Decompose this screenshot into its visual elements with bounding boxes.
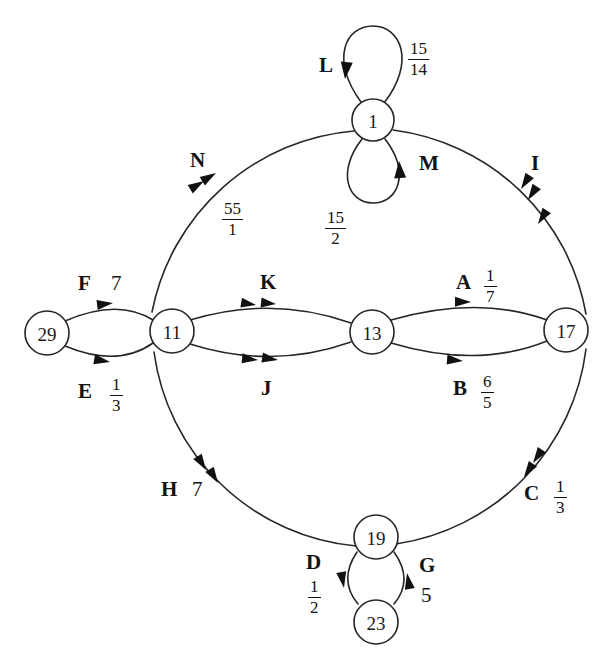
arrowhead-J-2 [261, 353, 278, 365]
edge-label-J: J [261, 378, 272, 399]
edge-path-K[interactable] [190, 308, 351, 323]
edge-path-G[interactable] [394, 552, 404, 604]
edge-label-H: H [161, 479, 177, 500]
edge-weight-N-numerator: 55 [222, 200, 243, 220]
edge-weight-B: 6 5 [481, 373, 494, 413]
edge-weight-N-denominator: 1 [222, 220, 243, 239]
edge-path-L[interactable] [344, 26, 402, 103]
edge-weight-B-numerator: 6 [481, 373, 494, 393]
edge-weight-A-denominator: 7 [484, 287, 497, 306]
edge-label-C: C [524, 483, 539, 504]
edge-path-M[interactable] [347, 139, 399, 203]
arrowhead-L-1 [339, 61, 353, 79]
edge-path-B[interactable] [391, 341, 547, 356]
left-lens-edges [65, 309, 153, 356]
node-13[interactable]: 13 [350, 310, 394, 354]
edge-label-N: N [190, 150, 205, 171]
edge-weight-C-denominator: 3 [554, 498, 567, 517]
node-23[interactable]: 23 [354, 600, 398, 644]
node-17-label: 17 [557, 321, 576, 342]
edge-weight-E: 1 3 [110, 376, 123, 416]
edge-weight-D: 1 2 [308, 578, 321, 618]
arrowhead-A-1 [455, 297, 471, 307]
edge-path-N[interactable] [152, 131, 354, 312]
edge-weight-C-numerator: 1 [554, 478, 567, 498]
edge-label-M: M [419, 153, 439, 174]
node-29-label: 29 [38, 324, 57, 345]
arrowhead-B-1 [447, 355, 464, 366]
edge-path-A[interactable] [391, 308, 547, 321]
node-23-label: 23 [367, 613, 386, 634]
edge-weight-G: 5 [421, 585, 432, 606]
edge-weight-B-denominator: 5 [481, 393, 494, 412]
arrowhead-C-2 [520, 461, 537, 480]
edge-weight-A: 1 7 [484, 267, 497, 307]
node-19-label: 19 [367, 528, 386, 549]
node-17[interactable]: 17 [544, 308, 588, 352]
node-11-label: 11 [163, 322, 181, 343]
edge-label-F: F [78, 273, 91, 294]
edge-label-K: K [260, 272, 276, 293]
bottom-lens-edges [348, 552, 404, 604]
edge-label-A: A [456, 272, 471, 293]
edge-weight-L: 15 14 [408, 40, 429, 80]
edge-weight-E-denominator: 3 [110, 396, 123, 415]
edge-path-H[interactable] [154, 352, 356, 546]
edge-weight-M-denominator: 2 [325, 229, 346, 248]
edge-path-J[interactable] [190, 342, 351, 357]
edge-weight-M: 15 2 [325, 209, 346, 249]
edge-path-D[interactable] [348, 552, 358, 604]
edge-label-G: G [419, 555, 435, 576]
node-19[interactable]: 19 [354, 515, 398, 559]
arrowhead-M-1 [393, 161, 406, 179]
arrowhead-F-1 [97, 298, 114, 310]
edge-label-I: I [531, 153, 539, 174]
edge-weight-D-denominator: 2 [308, 598, 321, 617]
node-13-label: 13 [363, 323, 382, 344]
edge-weight-H: 7 [192, 479, 203, 500]
edge-weight-L-denominator: 14 [408, 60, 429, 79]
edge-weight-C: 1 3 [554, 478, 567, 518]
edge-weight-M-numerator: 15 [325, 209, 346, 229]
node-1-label: 1 [368, 111, 378, 132]
edge-path-E[interactable] [65, 343, 153, 356]
edge-weight-F: 7 [111, 273, 122, 294]
node-29[interactable]: 29 [25, 311, 69, 355]
node-11[interactable]: 11 [150, 309, 194, 353]
directed-graph-figure: 1 11 13 17 19 23 [0, 0, 608, 665]
edge-label-L: L [319, 55, 333, 76]
edge-path-F[interactable] [65, 309, 153, 321]
edge-weight-L-numerator: 15 [408, 40, 429, 60]
edge-label-B: B [453, 378, 467, 399]
edge-label-E: E [78, 381, 92, 402]
edge-weight-N: 55 1 [222, 200, 243, 240]
graph-canvas: 1 11 13 17 19 23 [0, 0, 608, 665]
edge-weight-D-numerator: 1 [308, 578, 321, 598]
node-1[interactable]: 1 [352, 99, 394, 141]
edge-label-D: D [306, 552, 321, 573]
arrowhead-K-2 [261, 297, 277, 309]
edge-weight-E-numerator: 1 [110, 376, 123, 396]
edge-weight-A-numerator: 1 [484, 267, 497, 287]
arrowhead-I-2 [524, 184, 541, 203]
